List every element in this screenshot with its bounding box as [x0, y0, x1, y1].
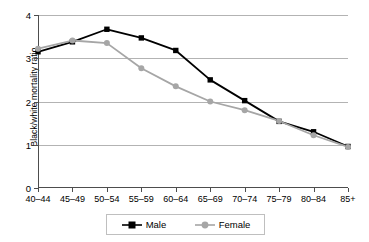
x-axis-tick-label: 85+ [340, 194, 355, 204]
data-point-male[interactable] [173, 48, 178, 53]
x-axis-tick [176, 188, 177, 192]
x-axis-tick-label: 50–54 [94, 194, 119, 204]
x-axis-tick-label: 55–59 [129, 194, 154, 204]
y-axis-tick-label: 1 [26, 139, 31, 150]
data-point-female[interactable] [138, 65, 144, 71]
data-point-female[interactable] [311, 132, 317, 138]
data-point-female[interactable] [69, 38, 75, 44]
x-axis-tick-label: 75–79 [267, 194, 292, 204]
x-axis-tick [38, 188, 39, 192]
x-axis-tick [107, 188, 108, 192]
data-point-male[interactable] [208, 77, 213, 82]
chart-legend: Male Female [106, 214, 265, 235]
data-point-female[interactable] [35, 46, 41, 52]
mortality-ratio-line-chart: Black/white mortality ratio 01234 40–444… [0, 0, 369, 242]
legend-item-male[interactable]: Male [121, 219, 167, 230]
data-point-male[interactable] [139, 35, 144, 40]
x-axis-tick-label: 45–49 [60, 194, 85, 204]
series-line-female [38, 41, 348, 147]
x-axis-tick [245, 188, 246, 192]
series-line-male [38, 29, 348, 146]
y-axis-tick-label: 2 [26, 96, 31, 107]
y-axis-tick-label: 4 [26, 10, 31, 21]
series-layer [38, 15, 348, 188]
data-point-female[interactable] [173, 83, 179, 89]
x-axis-tick [210, 188, 211, 192]
x-axis-tick-label: 60–64 [163, 194, 188, 204]
data-point-male[interactable] [242, 98, 247, 103]
data-point-female[interactable] [276, 118, 282, 124]
x-axis-tick [72, 188, 73, 192]
x-axis-tick-label: 40–44 [25, 194, 50, 204]
legend-marker-female-icon [194, 220, 216, 230]
data-point-female[interactable] [345, 144, 351, 150]
data-point-male[interactable] [104, 27, 109, 32]
x-axis-tick [279, 188, 280, 192]
y-axis-tick-label: 0 [26, 183, 31, 194]
plot-area: 01234 40–4445–4950–5455–5960–6465–6970–7… [38, 15, 348, 188]
legend-label-male: Male [146, 219, 167, 230]
legend-item-female[interactable]: Female [194, 219, 251, 230]
x-axis-tick [314, 188, 315, 192]
data-point-female[interactable] [242, 107, 248, 113]
x-axis-tick [141, 188, 142, 192]
data-point-female[interactable] [104, 40, 110, 46]
data-point-female[interactable] [207, 99, 213, 105]
x-axis-tick [348, 188, 349, 192]
x-axis-tick-label: 80–84 [301, 194, 326, 204]
x-axis-tick-label: 65–69 [198, 194, 223, 204]
legend-marker-male-icon [121, 220, 143, 230]
x-axis-tick-label: 70–74 [232, 194, 257, 204]
y-axis-tick-label: 3 [26, 53, 31, 64]
legend-label-female: Female [219, 219, 251, 230]
